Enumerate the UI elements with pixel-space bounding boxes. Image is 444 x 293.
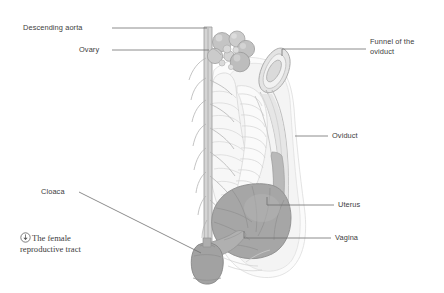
caption-line-2: reproductive tract — [20, 244, 81, 254]
ovary-follicles — [207, 31, 254, 72]
label-descending-aorta: Descending aorta — [23, 23, 83, 33]
label-cloaca: Cloaca — [41, 187, 65, 197]
caption-line-1: The female — [32, 233, 71, 243]
circled-arrow-icon — [20, 232, 31, 243]
label-funnel-of-the-oviduct-line1: Funnel of the — [370, 37, 414, 47]
figure-container: Descending aorta Ovary Funnel of the ovi… — [0, 0, 444, 293]
label-oviduct: Oviduct — [332, 131, 358, 141]
label-funnel-of-the-oviduct-line2: oviduct — [370, 47, 394, 57]
figure-caption: The female reproductive tract — [20, 232, 150, 255]
label-uterus: Uterus — [338, 200, 360, 210]
label-ovary: Ovary — [79, 45, 99, 55]
label-vagina: Vagina — [335, 233, 358, 243]
